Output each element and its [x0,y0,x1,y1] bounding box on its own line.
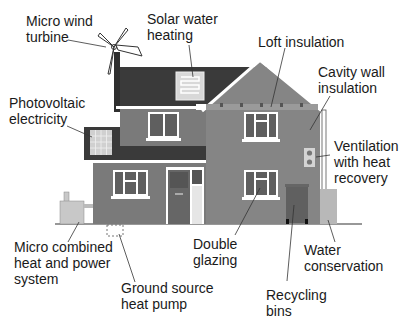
label-ventilation-heat-recovery: Ventilation with heat recovery [334,138,399,186]
label-line: Recycling [266,287,327,303]
label-line: Solar water [147,11,218,27]
label-recycling-bins: Recycling bins [266,287,327,319]
label-micro-chp: Micro combined heat and power system [14,239,113,287]
drainpipe [322,110,326,190]
label-line: Cavity wall [318,64,385,80]
label-line: bins [266,303,327,319]
label-micro-wind-turbine: Micro wind turbine [26,13,93,45]
ventilation-unit-icon [304,148,315,167]
label-ground-source-heat-pump: Ground source heat pump [121,280,214,312]
label-line: with heat [334,154,399,170]
label-line: Ventilation [334,138,399,154]
label-line: conservation [304,258,383,274]
water-butt [320,189,337,224]
label-line: Photovoltaic [9,95,85,111]
label-photovoltaic-electricity: Photovoltaic electricity [9,95,85,127]
label-line: heating [147,27,218,43]
label-line: Loft insulation [258,34,344,50]
upper-right-window [242,112,280,142]
upper-left-window [146,112,181,141]
gable-corner [318,102,328,110]
turbine-mast [114,52,120,112]
label-line: Water [304,242,383,258]
label-cavity-wall-insulation: Cavity wall insulation [318,64,385,96]
label-double-glazing: Double glazing [193,236,237,268]
lower-left-window [111,170,150,199]
front-door [166,167,204,224]
label-line: Double [193,236,237,252]
lower-right-window [242,170,280,200]
label-line: glazing [193,252,237,268]
micro-chp-unit-icon [60,192,93,224]
label-line: heat and power [14,255,113,271]
label-water-conservation: Water conservation [304,242,383,274]
label-loft-insulation: Loft insulation [258,34,344,50]
label-line: Micro wind [26,13,93,29]
recycling-bin-icon [285,184,309,224]
label-line: turbine [26,29,93,45]
ground-source-heat-pump-icon [107,225,123,236]
photovoltaic-panel-icon [90,130,112,155]
label-line: Micro combined [14,239,113,255]
label-solar-water-heating: Solar water heating [147,11,218,43]
label-line: heat pump [121,296,214,312]
label-line: electricity [9,111,85,127]
label-line: recovery [334,170,399,186]
label-line: insulation [318,80,385,96]
solar-water-panel-icon [176,72,204,100]
label-line: Ground source [121,280,214,296]
label-line: system [14,271,113,287]
lower-fascia [84,160,220,163]
